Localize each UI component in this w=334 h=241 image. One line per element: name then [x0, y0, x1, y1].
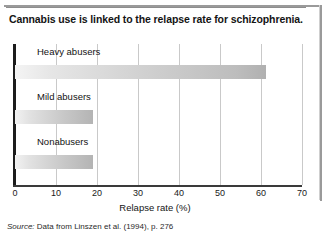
x-tick-60: 60: [256, 188, 266, 198]
source-note: Source: Data from Linszen et al. (1994),…: [7, 222, 173, 231]
source-prefix: Source:: [7, 222, 35, 231]
plot-area: Heavy abusers Mild abusers Nonabusers: [15, 44, 317, 185]
x-tick-20: 20: [92, 188, 102, 198]
chart-title: Cannabis use is linked to the relapse ra…: [9, 13, 309, 25]
x-axis-line: [13, 185, 302, 187]
figure-container: Cannabis use is linked to the relapse ra…: [0, 0, 334, 241]
x-tick-70: 70: [297, 188, 307, 198]
bar-nonabusers: [15, 155, 93, 169]
x-axis-tick-labels: 0 10 20 30 40 50 60 70: [15, 188, 317, 202]
top-rule-divider: [6, 5, 306, 8]
bar-label-mild-abusers: Mild abusers: [37, 91, 91, 102]
bar-mild-abusers: [15, 110, 93, 124]
bar-label-nonabusers: Nonabusers: [37, 136, 88, 147]
bar-label-heavy-abusers: Heavy abusers: [37, 46, 100, 57]
x-tick-50: 50: [215, 188, 225, 198]
x-tick-0: 0: [12, 188, 17, 198]
bar-heavy-abusers: [15, 65, 266, 79]
source-text: Data from Linszen et al. (1994), p. 276: [35, 222, 174, 231]
plot-canvas: Heavy abusers Mild abusers Nonabusers: [15, 44, 302, 185]
x-tick-30: 30: [133, 188, 143, 198]
x-tick-40: 40: [174, 188, 184, 198]
x-tick-10: 10: [51, 188, 61, 198]
x-axis-label: Relapse rate (%): [0, 202, 310, 213]
gridline-70: [302, 44, 303, 185]
